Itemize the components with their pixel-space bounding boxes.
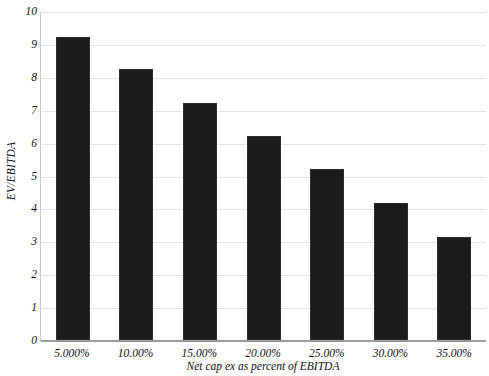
bars-layer	[41, 12, 486, 340]
y-axis-tick-label: 4	[31, 204, 37, 216]
y-axis-tick-label: 6	[31, 138, 37, 150]
bar[interactable]	[119, 69, 153, 340]
bar-chart: EV/EBITDA 012345678910 5.000%10.00%15.00…	[0, 0, 489, 376]
y-axis-tick-label: 3	[31, 237, 37, 249]
y-axis-tick-label: 0	[31, 335, 37, 347]
x-axis-title: Net cap ex as percent of EBITDA	[40, 360, 486, 372]
bar[interactable]	[56, 37, 90, 340]
bar-slot	[295, 12, 359, 340]
y-axis-tick-label: 7	[31, 105, 37, 117]
bar[interactable]	[310, 169, 344, 340]
y-axis-tick-label: 9	[31, 39, 37, 51]
bar[interactable]	[247, 136, 281, 340]
bar-slot	[168, 12, 232, 340]
bar-slot	[232, 12, 296, 340]
y-axis-tick-labels: 012345678910	[20, 0, 40, 376]
bar-slot	[41, 12, 105, 340]
y-axis-tick-label: 1	[31, 302, 37, 314]
y-axis-tick-label: 2	[31, 269, 37, 281]
y-axis-tick-label: 5	[31, 171, 37, 183]
y-axis-tick-label: 8	[31, 72, 37, 84]
y-axis-title-label: EV/EBITDA	[5, 141, 17, 200]
bar[interactable]	[374, 203, 408, 340]
bar[interactable]	[437, 237, 471, 340]
y-axis-tick-label: 10	[26, 6, 38, 18]
bar-slot	[359, 12, 423, 340]
plot-area	[40, 12, 486, 341]
bar-slot	[105, 12, 169, 340]
y-axis-title: EV/EBITDA	[0, 0, 22, 341]
bar-slot	[422, 12, 486, 340]
bar[interactable]	[183, 103, 217, 340]
